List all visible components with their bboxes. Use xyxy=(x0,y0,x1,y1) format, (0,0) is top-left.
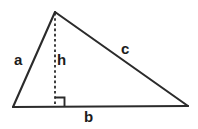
label-height-h: h xyxy=(57,52,66,67)
side-c-line xyxy=(55,12,188,106)
triangle-diagram: a h c b xyxy=(0,0,198,129)
label-side-c: c xyxy=(121,41,129,56)
base-b-line xyxy=(13,106,188,107)
label-side-a: a xyxy=(14,52,22,67)
label-base-b: b xyxy=(84,109,93,124)
right-angle-marker-icon xyxy=(55,98,65,107)
triangle-figure xyxy=(0,0,198,129)
